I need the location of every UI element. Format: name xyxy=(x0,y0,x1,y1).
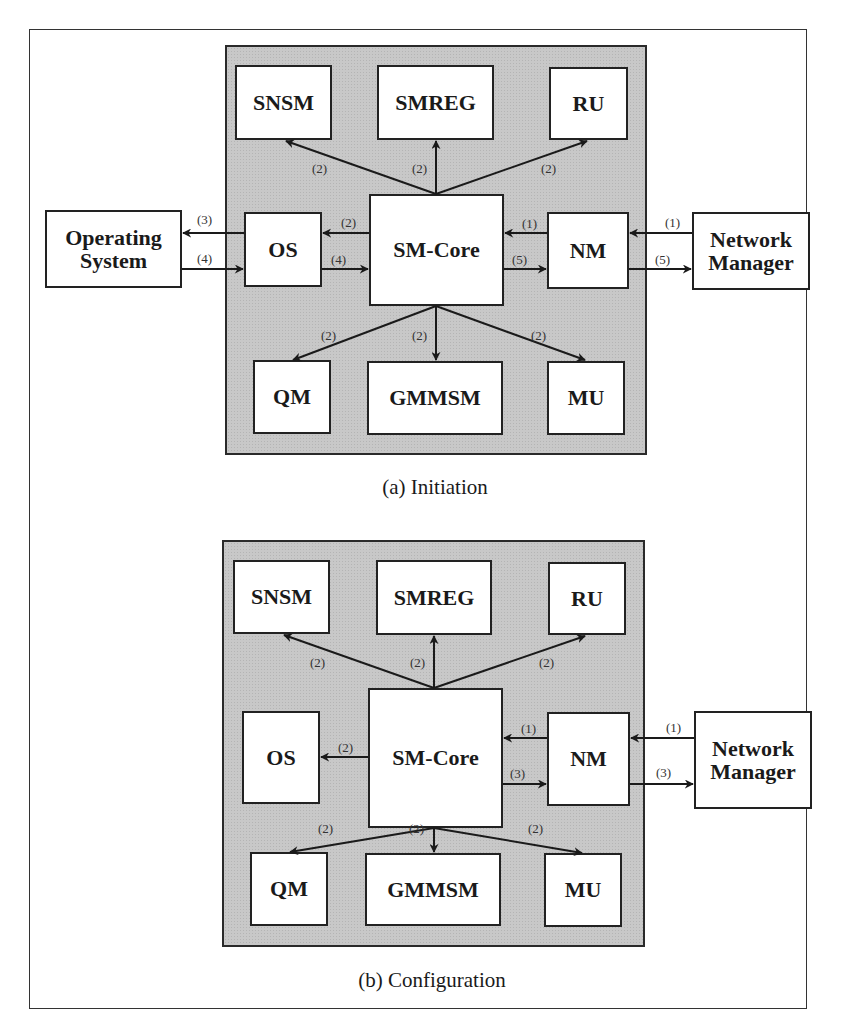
edge-label-core-os-b: (2) xyxy=(338,740,353,756)
edge-label-smreg-b: (2) xyxy=(410,655,425,671)
module-qm-a: QM xyxy=(253,360,331,434)
module-gmmsm-a: GMMSM xyxy=(367,361,503,435)
edge-label-netmgr-nm-a: (1) xyxy=(665,215,680,231)
edge-label-nm-netmgr-a: (5) xyxy=(655,252,670,268)
module-mu-b: MU xyxy=(544,853,622,927)
edge-label-snsm-a: (2) xyxy=(312,161,327,177)
external-network-manager-a: Network Manager xyxy=(692,212,810,290)
module-mu-a: MU xyxy=(547,361,625,435)
module-nm-a: NM xyxy=(547,212,629,289)
module-smreg-a: SMREG xyxy=(377,65,494,140)
edge-label-os-opsys: (3) xyxy=(197,212,212,228)
edge-label-qm-b: (2) xyxy=(318,821,333,837)
edge-label-ru-a: (2) xyxy=(541,161,556,177)
edge-label-netmgr-nm-b: (1) xyxy=(666,720,681,736)
module-qm-b: QM xyxy=(250,852,328,926)
edge-label-nm-netmgr-b: (3) xyxy=(656,765,671,781)
module-sm-core-a: SM-Core xyxy=(369,194,504,306)
external-operating-system: Operating System xyxy=(45,210,182,288)
module-smreg-b: SMREG xyxy=(376,560,492,635)
external-network-manager-b: Network Manager xyxy=(694,711,812,809)
edge-label-smreg-a: (2) xyxy=(412,161,427,177)
module-os-b: OS xyxy=(242,711,320,804)
caption-configuration: (b) Configuration xyxy=(282,968,582,993)
edge-label-mu-b: (2) xyxy=(528,821,543,837)
module-nm-b: NM xyxy=(547,712,630,806)
edge-label-core-os-a: (2) xyxy=(341,215,356,231)
module-sm-core-b: SM-Core xyxy=(368,688,503,828)
edge-label-nm-core-b: (1) xyxy=(521,721,536,737)
module-ru-a: RU xyxy=(549,67,628,140)
edge-label-snsm-b: (2) xyxy=(310,655,325,671)
module-snsm-b: SNSM xyxy=(233,560,330,634)
edge-label-core-nm-a: (5) xyxy=(512,252,527,268)
edge-label-os-core-a: (4) xyxy=(331,252,346,268)
edge-label-mu-a: (2) xyxy=(531,328,546,344)
edge-label-ru-b: (2) xyxy=(539,655,554,671)
edge-label-qm-a: (2) xyxy=(321,328,336,344)
edge-label-gmmsm-b: (2) xyxy=(409,821,424,837)
module-gmmsm-b: GMMSM xyxy=(365,853,501,926)
caption-initiation: (a) Initiation xyxy=(285,475,585,500)
module-snsm-a: SNSM xyxy=(235,65,332,140)
module-os-a: OS xyxy=(244,212,322,287)
edge-label-opsys-os: (4) xyxy=(197,251,212,267)
edge-label-gmmsm-a: (2) xyxy=(412,328,427,344)
edge-label-core-nm-b: (3) xyxy=(510,766,525,782)
module-ru-b: RU xyxy=(548,562,626,635)
edge-label-nm-core-a: (1) xyxy=(522,216,537,232)
